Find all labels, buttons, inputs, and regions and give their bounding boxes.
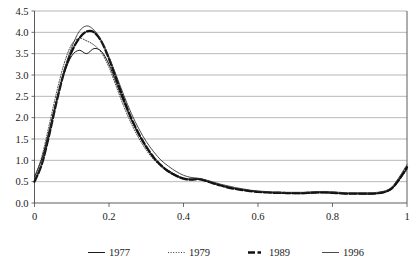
y-axis-tick-label: 0.5 <box>15 176 28 187</box>
legend-label-1977: 1977 <box>109 247 130 258</box>
legend-label-1989: 1989 <box>269 247 290 258</box>
y-axis-tick-label: 2.5 <box>15 91 28 102</box>
chart-background <box>0 0 420 270</box>
x-axis-tick-label: 0.2 <box>102 211 115 222</box>
x-axis-tick-label: 1 <box>404 211 409 222</box>
x-axis-tick-label: 0 <box>32 211 37 222</box>
y-axis-tick-label: 3.0 <box>15 70 28 81</box>
y-axis-tick-label: 2.0 <box>15 112 28 123</box>
y-axis-tick-label: 3.5 <box>15 48 28 59</box>
density-chart: 0.00.51.01.52.02.53.03.54.04.5 00.20.40.… <box>0 0 420 270</box>
legend-label-1979: 1979 <box>189 247 210 258</box>
chart-canvas: 0.00.51.01.52.02.53.03.54.04.5 00.20.40.… <box>0 0 420 270</box>
y-axis-tick-label: 4.5 <box>15 6 28 17</box>
legend-label-1996: 1996 <box>343 247 364 258</box>
x-axis-tick-label: 0.8 <box>326 211 339 222</box>
x-axis-tick-label: 0.6 <box>251 211 264 222</box>
x-axis-tick-label: 0.4 <box>177 211 191 222</box>
y-axis-tick-label: 0.0 <box>15 198 28 209</box>
y-axis-tick-label: 4.0 <box>15 27 28 38</box>
y-axis-tick-label: 1.5 <box>15 134 28 145</box>
y-axis-tick-label: 1.0 <box>15 155 28 166</box>
